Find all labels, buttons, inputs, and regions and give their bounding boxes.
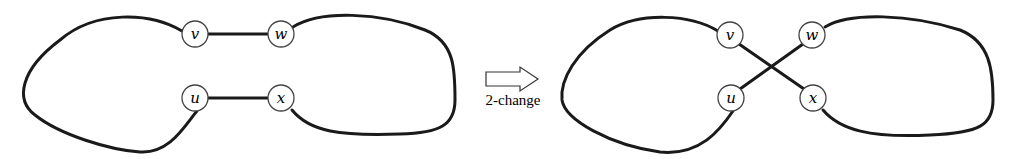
svg-text:v: v — [191, 25, 200, 43]
node-u: u — [182, 85, 208, 111]
two-change-diagram: v w u x 2-change v w u x — [0, 0, 1016, 159]
before-tour — [24, 15, 455, 152]
after-tour — [562, 17, 993, 153]
node-x: x — [268, 85, 294, 111]
node-w: w — [268, 21, 294, 47]
node-v-after: v — [717, 22, 743, 48]
node-u-after: u — [718, 85, 744, 111]
node-w-after: w — [799, 22, 825, 48]
right-loop-path-after — [823, 17, 993, 136]
svg-text:x: x — [277, 89, 286, 107]
arrow-label: 2-change — [486, 92, 541, 108]
left-loop-path — [24, 17, 197, 152]
node-v: v — [182, 21, 208, 47]
svg-text:u: u — [726, 89, 736, 107]
svg-text:u: u — [190, 89, 200, 107]
svg-text:w: w — [275, 25, 288, 43]
node-x-after: x — [800, 85, 826, 111]
transform-arrow: 2-change — [486, 67, 541, 108]
svg-text:w: w — [806, 26, 819, 44]
right-loop-path — [292, 15, 455, 134]
svg-text:v: v — [726, 26, 735, 44]
arrow-right-icon — [486, 67, 538, 91]
svg-text:x: x — [809, 89, 818, 107]
left-loop-path-after — [562, 17, 733, 152]
